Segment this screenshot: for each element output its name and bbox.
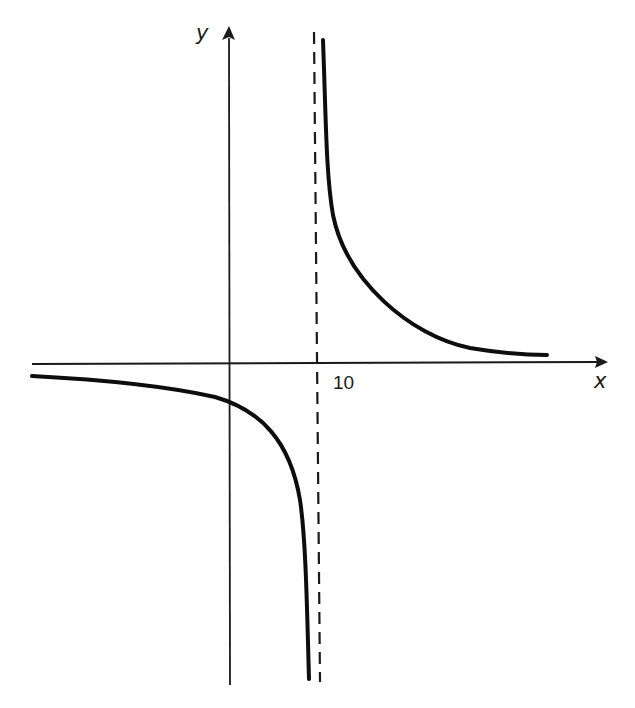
hyperbola-chart: y x 10 (0, 0, 635, 708)
y-axis-arrow-icon (222, 26, 235, 40)
y-axis-label: y (195, 21, 209, 45)
vertical-asymptote (314, 32, 320, 682)
x-axis-label: x (593, 369, 607, 393)
y-axis (229, 38, 230, 685)
x-tick-10: 10 (333, 372, 354, 393)
curve-right-branch (323, 40, 547, 355)
curve-left-branch (32, 376, 309, 679)
